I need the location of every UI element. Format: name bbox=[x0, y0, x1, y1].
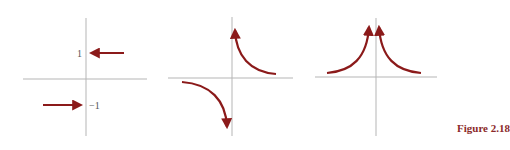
curve-left bbox=[327, 27, 369, 73]
curve-lower-left bbox=[182, 82, 227, 127]
panel-even-vertical-asymptote bbox=[315, 18, 437, 136]
curve-upper-right bbox=[235, 30, 276, 74]
panel-horizontal-asymptotes: 1 −1 bbox=[23, 18, 147, 136]
curve-right bbox=[379, 27, 421, 73]
panel-odd-vertical-asymptote bbox=[168, 17, 293, 136]
label-one: 1 bbox=[77, 48, 82, 59]
label-minus-one: −1 bbox=[89, 100, 100, 111]
figure-caption: Figure 2.18 bbox=[457, 122, 510, 134]
